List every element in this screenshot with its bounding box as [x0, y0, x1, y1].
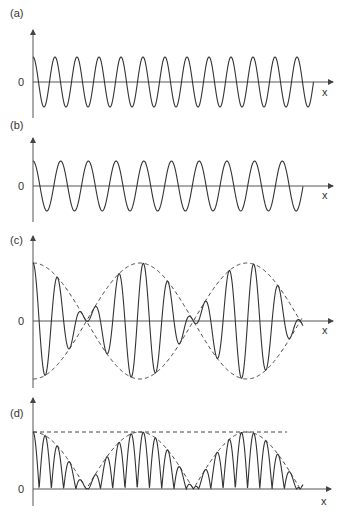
envelope-upper-c	[33, 263, 303, 321]
panel-a: (a) 0 x	[10, 7, 333, 118]
beats-figure: (a) 0 x (b) 0 x (c) 0 x (d) 0 x	[0, 0, 346, 517]
panel-label-b: (b)	[10, 119, 23, 131]
panel-d: (d) 0 x	[10, 398, 331, 507]
panel-label-a: (a)	[10, 7, 23, 19]
zero-label-c: 0	[18, 315, 24, 327]
x-label-d: x	[321, 495, 327, 507]
panel-label-c: (c)	[10, 234, 23, 246]
panel-c: (c) 0 x	[10, 234, 333, 388]
panel-b: (b) 0 x	[10, 119, 333, 222]
panel-label-d: (d)	[10, 407, 23, 419]
x-label-b: x	[322, 189, 328, 201]
x-label-a: x	[322, 86, 328, 98]
magnitude-wave-d	[33, 432, 303, 489]
x-label-c: x	[322, 324, 328, 336]
zero-label-d: 0	[18, 483, 24, 495]
zero-label-a: 0	[18, 76, 24, 88]
zero-label-b: 0	[18, 180, 24, 192]
